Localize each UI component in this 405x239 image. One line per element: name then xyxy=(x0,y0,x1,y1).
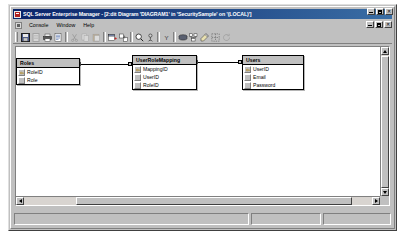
table-column-row[interactable]: RoleID xyxy=(133,81,196,89)
column-gutter xyxy=(244,82,251,89)
column-name: UserID xyxy=(143,74,159,81)
sql-server-icon xyxy=(14,11,21,18)
svg-text:Y: Y xyxy=(164,34,168,40)
table-column-row[interactable]: RoleID xyxy=(17,68,79,76)
table-title[interactable]: Roles xyxy=(17,59,79,68)
column-name: Email xyxy=(253,74,266,81)
menu-item-window[interactable]: Window xyxy=(52,21,79,29)
scroll-up-button[interactable] xyxy=(381,47,389,55)
column-name: Role xyxy=(27,77,37,84)
toolbar-separator xyxy=(173,32,176,42)
close-button[interactable]: ✕ xyxy=(385,8,393,15)
main-window: SQL Server Enterprise Manager - [2:dit D… xyxy=(8,4,397,231)
diagram-table-users[interactable]: Users UserID Email xyxy=(242,55,304,90)
copy-button[interactable] xyxy=(80,32,91,43)
page-breaks-button[interactable] xyxy=(210,32,221,43)
print-button[interactable] xyxy=(42,32,53,43)
mdi-close-icon: ✕ xyxy=(385,22,391,27)
relationship-line-roles-userrolemapping[interactable] xyxy=(80,64,130,65)
title-bar[interactable]: SQL Server Enterprise Manager - [2:dit D… xyxy=(13,9,392,19)
menu-item-help[interactable]: Help xyxy=(79,21,98,29)
show-sql-button[interactable]: Y xyxy=(161,32,172,43)
table-column-row[interactable]: UserID xyxy=(133,73,196,81)
diagram-canvas[interactable]: Roles RoleID Role xyxy=(16,47,380,196)
add-related-button[interactable] xyxy=(118,32,129,43)
zoom-button[interactable] xyxy=(134,32,145,43)
save-button[interactable] xyxy=(20,32,31,43)
arrange-tables-button[interactable] xyxy=(188,32,199,43)
column-name: UserID xyxy=(253,66,269,73)
diagram-table-userrolemapping[interactable]: UserRoleMapping MappingID UserID xyxy=(132,55,197,90)
chevron-right-icon xyxy=(375,199,378,203)
column-gutter xyxy=(134,74,141,81)
horizontal-scrollbar[interactable] xyxy=(16,196,380,205)
console-icon[interactable] xyxy=(15,22,22,29)
column-name: RoleID xyxy=(27,69,43,76)
window-controls: ✕ xyxy=(367,8,393,15)
maximize-button[interactable] xyxy=(376,8,384,15)
primary-key-icon xyxy=(18,69,25,76)
table-columns: RoleID Role xyxy=(17,68,79,84)
properties-button[interactable] xyxy=(53,32,64,43)
close-icon: ✕ xyxy=(386,9,392,14)
chevron-left-icon xyxy=(19,199,22,203)
toolbar-separator xyxy=(65,32,68,42)
toolbar-separator xyxy=(157,32,160,42)
recalculate-button[interactable] xyxy=(221,32,232,43)
toolbar-separator xyxy=(130,32,133,42)
horizontal-scroll-thumb[interactable] xyxy=(76,197,352,205)
column-gutter xyxy=(244,74,251,81)
status-panel-message xyxy=(14,213,249,225)
table-column-row[interactable]: Role xyxy=(17,76,79,84)
table-column-row[interactable]: MappingID xyxy=(133,65,196,73)
toolbar-separator xyxy=(103,32,106,42)
mdi-restore-button[interactable] xyxy=(375,21,383,28)
column-name: RoleID xyxy=(143,82,159,89)
screenshot-root: SQL Server Enterprise Manager - [2:dit D… xyxy=(0,0,405,239)
mdi-close-button[interactable]: ✕ xyxy=(384,21,392,28)
column-gutter xyxy=(18,77,25,84)
annotation-button[interactable] xyxy=(199,32,210,43)
add-table-button[interactable] xyxy=(107,32,118,43)
table-title[interactable]: UserRoleMapping xyxy=(133,56,196,65)
main-window-frame: SQL Server Enterprise Manager - [2:dit D… xyxy=(10,6,395,229)
table-columns: MappingID UserID RoleID xyxy=(133,65,196,89)
chevron-down-icon xyxy=(383,191,387,194)
relationship-line-userrolemapping-users[interactable] xyxy=(197,62,240,63)
menu-item-console[interactable]: Console xyxy=(25,21,52,29)
paste-button[interactable] xyxy=(91,32,102,43)
mdi-child-controls: ✕ xyxy=(366,21,392,28)
table-title[interactable]: Users xyxy=(243,56,303,65)
vertical-scrollbar[interactable] xyxy=(380,47,389,196)
mdi-minimize-button[interactable] xyxy=(366,21,374,28)
database-button[interactable] xyxy=(177,32,188,43)
column-name: MappingID xyxy=(143,66,168,73)
table-column-row[interactable]: UserID xyxy=(243,65,303,73)
diagram-table-roles[interactable]: Roles RoleID Role xyxy=(16,58,80,85)
new-table-button[interactable] xyxy=(31,32,42,43)
diagram-window: Roles RoleID Role xyxy=(15,46,390,206)
toolbar: Y xyxy=(13,31,392,44)
table-column-row[interactable]: Password xyxy=(243,81,303,89)
status-bar xyxy=(14,213,391,225)
column-gutter xyxy=(134,82,141,89)
chevron-up-icon xyxy=(383,50,387,53)
scroll-down-button[interactable] xyxy=(381,188,389,196)
toolbar-grip[interactable] xyxy=(15,32,18,42)
status-panel-secondary xyxy=(251,213,321,225)
cut-button[interactable] xyxy=(69,32,80,43)
relationships-button[interactable] xyxy=(145,32,156,43)
column-name: Password xyxy=(253,82,275,89)
minimize-button[interactable] xyxy=(367,8,375,15)
table-column-row[interactable]: Email xyxy=(243,73,303,81)
vertical-scroll-thumb[interactable] xyxy=(381,56,389,188)
primary-key-icon xyxy=(134,66,141,73)
scroll-left-button[interactable] xyxy=(16,197,24,205)
scroll-right-button[interactable] xyxy=(372,197,380,205)
status-panel-tertiary xyxy=(323,213,391,225)
table-columns: UserID Email Password xyxy=(243,65,303,89)
scrollbar-corner xyxy=(380,196,389,205)
primary-key-icon xyxy=(244,66,251,73)
menu-bar: Console Window Help xyxy=(13,20,392,30)
window-title: SQL Server Enterprise Manager - [2:dit D… xyxy=(23,9,252,19)
